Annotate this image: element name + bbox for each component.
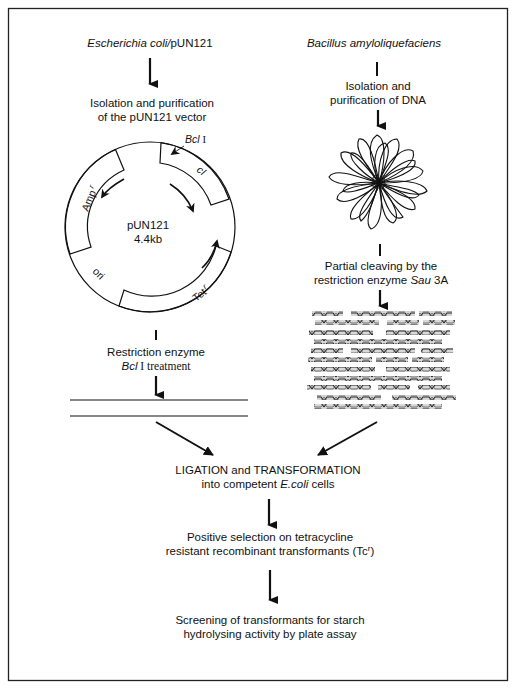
figure-border bbox=[9, 9, 508, 681]
step-partial-cleave-line2: restriction enzyme Sau 3A bbox=[314, 274, 449, 286]
step-ligation-line2: into competent E.coli cells bbox=[202, 478, 335, 490]
step-selection-line2: resistant recombinant transformants (Tcr… bbox=[166, 544, 375, 557]
step-restriction-line2: Bcl I treatment bbox=[122, 360, 192, 372]
ci-direction-arrow-icon bbox=[170, 184, 193, 211]
source-ecoli-label: Escherichia coli/pUN121 bbox=[87, 37, 212, 49]
step-selection-line1: Positive selection on tetracycline bbox=[187, 531, 353, 543]
step-restriction-line1: Restriction enzyme bbox=[107, 346, 205, 358]
step-isolate-dna-line2: purification of DNA bbox=[330, 94, 426, 106]
plasmid-map: BclI cI Ampr ori Tetr pUN121 4.4kb bbox=[65, 133, 235, 312]
ori-label: ori bbox=[91, 265, 108, 282]
step-isolate-dna-line1: Isolation and bbox=[345, 80, 410, 92]
tet-gene-segment bbox=[119, 246, 231, 312]
cloning-flowchart: Escherichia coli/pUN121 Isolation and pu… bbox=[0, 0, 516, 688]
plasmid-name: pUN121 bbox=[127, 219, 169, 231]
arrow-converge-right-icon bbox=[318, 422, 377, 455]
step-screening-line1: Screening of transformants for starch bbox=[175, 614, 364, 626]
bcl-site-label: BclI bbox=[185, 133, 207, 145]
ci-gene-segment bbox=[160, 143, 229, 205]
amp-gene-label: Ampr bbox=[78, 183, 100, 213]
chromosomal-dna-icon bbox=[329, 135, 427, 229]
amp-direction-arrow-icon bbox=[102, 179, 124, 197]
step-isolate-vector-line1: Isolation and purification bbox=[90, 97, 214, 109]
step-isolate-vector-line2: of the pUN121 vector bbox=[98, 111, 207, 123]
right-branch: Bacillus amyloliquefaciens Isolation and… bbox=[307, 37, 456, 409]
source-bacillus-label: Bacillus amyloliquefaciens bbox=[307, 37, 441, 49]
dna-fragments bbox=[307, 311, 456, 409]
step-screening-line2: hydrolysing activity by plate assay bbox=[183, 628, 356, 640]
left-branch: Escherichia coli/pUN121 Isolation and pu… bbox=[65, 37, 248, 416]
step-ligation-line1: LIGATION and TRANSFORMATION bbox=[175, 464, 360, 476]
step-partial-cleave-line1: Partial cleaving by the bbox=[325, 260, 438, 272]
tet-direction-arrow-icon bbox=[202, 241, 217, 268]
plasmid-size: 4.4kb bbox=[134, 233, 162, 245]
arrow-converge-left-icon bbox=[156, 422, 213, 455]
amp-gene-segment bbox=[66, 150, 124, 255]
